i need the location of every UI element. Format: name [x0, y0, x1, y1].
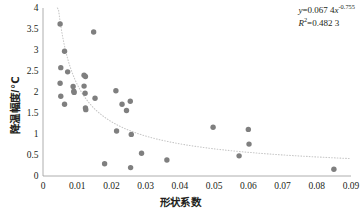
trendline: [57, 8, 349, 158]
x-tick-label: 0.08: [308, 181, 325, 191]
data-point: [246, 141, 251, 146]
data-point: [236, 153, 241, 158]
x-tick-label: 0: [41, 181, 46, 191]
y-axis-title: 降温幅度/℃: [7, 55, 22, 155]
x-axis-title: 形状系数: [0, 194, 361, 209]
data-point: [58, 94, 63, 99]
r-squared-line: R2=0.482 3: [298, 16, 355, 29]
data-point-group: [57, 21, 336, 172]
y-tick-label: 3: [34, 45, 39, 55]
data-point: [246, 127, 251, 132]
data-point: [114, 128, 119, 133]
equation-coefficient: =0.067 4: [302, 5, 334, 15]
y-tick-label: 1.5: [27, 108, 39, 118]
y-tick-label: 0: [34, 171, 39, 181]
data-point: [210, 125, 215, 130]
data-point: [102, 161, 107, 166]
x-tick-label: 0.01: [69, 181, 86, 191]
trendline-equation-annotation: y=0.067 4x-0.755 R2=0.482 3: [298, 3, 355, 29]
data-point: [65, 69, 70, 74]
data-point: [92, 96, 97, 101]
data-point: [129, 132, 134, 137]
data-point: [70, 84, 75, 89]
y-tick-label: 3.5: [27, 24, 39, 34]
data-point: [62, 101, 67, 106]
scatter-chart: 00.511.522.533.5400.010.020.030.040.050.…: [0, 0, 361, 210]
data-point: [139, 151, 144, 156]
y-tick-label: 4: [34, 3, 39, 13]
x-tick-label: 0.04: [172, 181, 189, 191]
regression-equation-line: y=0.067 4x-0.755: [298, 3, 355, 16]
data-point: [83, 107, 88, 112]
data-point: [128, 165, 133, 170]
y-tick-label: 1: [34, 129, 39, 139]
data-point: [62, 49, 67, 54]
x-tick-label: 0.03: [137, 181, 154, 191]
data-point: [124, 108, 129, 113]
data-point: [128, 99, 133, 104]
y-tick-label: 2: [34, 87, 39, 97]
data-point: [119, 101, 124, 106]
data-point: [91, 29, 96, 34]
data-point: [71, 90, 76, 95]
data-point: [164, 157, 169, 162]
x-tick-label: 0.06: [240, 181, 257, 191]
data-point: [83, 74, 88, 79]
x-tick-label: 0.09: [343, 181, 360, 191]
data-point: [113, 88, 118, 93]
x-tick-label: 0.07: [274, 181, 291, 191]
x-tick-label: 0.02: [103, 181, 120, 191]
data-point: [57, 80, 62, 85]
data-point: [331, 167, 336, 172]
y-tick-label: 2.5: [27, 66, 39, 76]
plot-area: 00.511.522.533.5400.010.020.030.040.050.…: [0, 0, 361, 210]
data-point: [57, 21, 62, 26]
data-point: [58, 65, 63, 70]
r-squared-value: =0.482 3: [307, 18, 339, 28]
y-tick-label: 0.5: [27, 150, 39, 160]
data-point: [81, 83, 86, 88]
data-point: [82, 91, 87, 96]
equation-exponent: -0.755: [338, 3, 355, 10]
x-tick-label: 0.05: [206, 181, 223, 191]
